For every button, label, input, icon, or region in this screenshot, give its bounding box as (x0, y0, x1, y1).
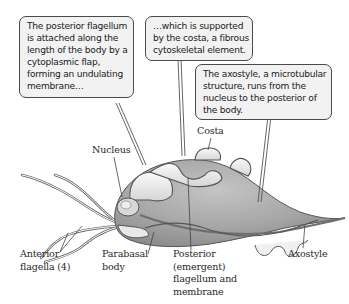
callout-undulating-membrane: The posterior flagellum is attached alon… (19, 16, 134, 98)
callout-line: length of the body by a (27, 44, 128, 56)
callout-line: cytoskeletal element. (153, 44, 247, 56)
callout-line: …which is supported (153, 20, 247, 32)
callout-line: is attached along the (27, 32, 128, 44)
callout-line: the body. (203, 104, 326, 116)
diagram-canvas: The posterior flagellum is attached alon… (0, 0, 349, 304)
label-costa: Costa (197, 125, 224, 138)
callout-line: membrane… (27, 80, 128, 92)
label-parabasal-body: Parabasal body (102, 248, 148, 273)
callout-line: nucleus to the posterior of (203, 92, 326, 104)
callout-line: structure, runs from the (203, 80, 326, 92)
callout-line: by the costa, a fibrous (153, 32, 247, 44)
label-axostyle: Axostyle (288, 248, 327, 261)
callout-axostyle: The axostyle, a microtubular structure, … (195, 64, 332, 120)
callout-line: The posterior flagellum (27, 20, 128, 32)
label-nucleus: Nucleus (92, 144, 130, 157)
callout-line: The axostyle, a microtubular (203, 68, 326, 80)
callout-line: cytoplasmic flap, (27, 56, 128, 68)
label-anterior-flagella: Anterior flagella (4) (20, 248, 70, 273)
callout-line: forming an undulating (27, 68, 128, 80)
label-posterior-flagellum: Posterior (emergent) flagellum and membr… (173, 248, 237, 298)
callout-costa: …which is supported by the costa, a fibr… (145, 16, 253, 61)
